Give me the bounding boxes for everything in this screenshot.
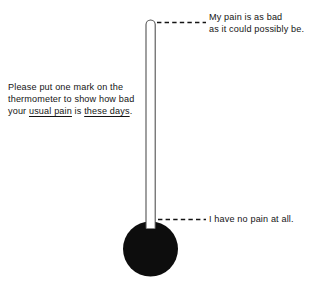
thermometer-graphic — [0, 0, 319, 285]
instruction-text-plain-3: . — [130, 106, 133, 116]
anchor-label-bottom-line-1: I have no pain at all. — [209, 213, 294, 225]
instruction-text-plain-1: your — [8, 106, 29, 116]
instruction-emphasis-usual-pain: usual pain — [29, 106, 72, 116]
anchor-label-top-line-2: as it could possibly be. — [209, 23, 304, 35]
thermometer-bulb — [123, 222, 178, 277]
instruction-text: Please put one mark on the thermometer t… — [8, 81, 148, 117]
anchor-label-top-line-1: My pain is as bad — [209, 11, 304, 23]
anchor-label-bottom: I have no pain at all. — [209, 213, 294, 225]
instruction-emphasis-these-days: these days — [84, 106, 129, 116]
anchor-label-top: My pain is as bad as it could possibly b… — [209, 11, 304, 35]
instruction-line-3: your usual pain is these days. — [8, 105, 148, 117]
thermometer-tube — [146, 20, 155, 229]
instruction-line-1: Please put one mark on the — [8, 81, 148, 93]
pain-thermometer-figure: Please put one mark on the thermometer t… — [0, 0, 319, 285]
instruction-text-plain-2: is — [72, 106, 84, 116]
instruction-line-2: thermometer to show how bad — [8, 93, 148, 105]
